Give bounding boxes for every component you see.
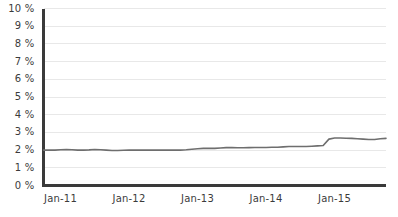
y-axis-tick-label: 0 % (0, 181, 35, 191)
y-axis-tick-label: 9 % (0, 21, 35, 31)
x-axis-tick-label: Jan-15 (305, 193, 365, 204)
y-axis-tick-label: 7 % (0, 57, 35, 67)
x-axis-tick-label: Jan-14 (236, 193, 296, 204)
plot-area (0, 0, 398, 217)
y-axis-tick-label: 1 % (0, 163, 35, 173)
line-chart: 10 %9 %8 %7 %6 %5 %4 %3 %2 %1 %0 % Jan-1… (0, 0, 398, 217)
y-axis-tick-label: 2 % (0, 145, 35, 155)
y-axis-tick-label: 5 % (0, 92, 35, 102)
x-axis-tick-label: Jan-12 (99, 193, 159, 204)
x-axis-tick-label: Jan-11 (31, 193, 91, 204)
y-axis-tick-label: 3 % (0, 127, 35, 137)
y-axis-tick-label: 8 % (0, 39, 35, 49)
y-axis-tick-label: 6 % (0, 74, 35, 84)
y-axis-tick-label: 10 % (0, 4, 35, 14)
x-axis-tick-label: Jan-13 (168, 193, 228, 204)
y-axis-tick-label: 4 % (0, 110, 35, 120)
